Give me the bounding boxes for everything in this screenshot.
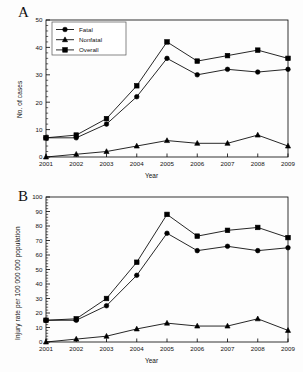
data-point (255, 48, 260, 53)
data-point (255, 132, 260, 137)
data-point (164, 138, 169, 143)
y-tick-label: 50 (36, 16, 43, 23)
y-tick-label: 60 (36, 251, 43, 258)
series-line (46, 58, 288, 137)
series-line (46, 214, 288, 320)
panel-a: A 01020304050200120022003200420052006200… (0, 0, 303, 186)
panel-a-plot: 0102030405020012002200320042005200620072… (0, 0, 303, 186)
data-point (195, 234, 200, 239)
x-tick-label: 2008 (251, 160, 265, 167)
data-point (286, 67, 291, 72)
data-point (225, 244, 230, 249)
data-point (134, 83, 139, 88)
legend-label: Overall (79, 46, 99, 53)
figure-container: A 01020304050200120022003200420052006200… (0, 0, 303, 372)
y-tick-label: 40 (36, 44, 43, 51)
data-point (195, 59, 200, 64)
x-tick-label: 2009 (281, 345, 295, 352)
data-point (104, 303, 109, 308)
data-point (165, 56, 170, 61)
x-tick-label: 2002 (69, 160, 83, 167)
data-point (104, 116, 109, 121)
data-point (286, 56, 291, 61)
panel-a-y-axis-title: No. of cases (16, 81, 23, 118)
panel-b-y-axis-title: Injury rate per 100 000 000 population (14, 226, 21, 340)
legend-marker-square (63, 48, 68, 53)
data-point (165, 212, 170, 217)
data-point (195, 248, 200, 253)
x-tick-label: 2009 (281, 160, 295, 167)
x-tick-label: 2007 (221, 345, 235, 352)
y-tick-label: 90 (36, 208, 43, 215)
y-tick-label: 50 (36, 266, 43, 273)
data-point (255, 70, 260, 75)
panel-a-x-axis-title: Year (0, 172, 303, 179)
x-tick-label: 2005 (160, 160, 174, 167)
data-point (74, 133, 79, 138)
data-point (165, 40, 170, 45)
y-tick-label: 10 (36, 324, 43, 331)
legend-label: Nonfatal (79, 36, 102, 43)
series-overall (44, 212, 291, 322)
panel-b: B 01020304050607080901002001200220032004… (0, 186, 303, 372)
y-tick-label: 30 (36, 71, 43, 78)
data-point (165, 231, 170, 236)
x-tick-label: 2005 (160, 345, 174, 352)
x-tick-label: 2001 (39, 345, 53, 352)
y-tick-label: 80 (36, 222, 43, 229)
x-tick-label: 2008 (251, 345, 265, 352)
panel-b-plot: 0102030405060708090100200120022003200420… (0, 186, 303, 372)
data-point (104, 296, 109, 301)
x-tick-label: 2003 (100, 345, 114, 352)
data-point (255, 225, 260, 230)
series-fatal (44, 231, 291, 323)
series-fatal (44, 56, 291, 140)
y-tick-label: 70 (36, 237, 43, 244)
data-point (164, 320, 169, 325)
y-tick-label: 20 (36, 309, 43, 316)
x-tick-label: 2007 (221, 160, 235, 167)
data-point (134, 94, 139, 99)
data-point (255, 316, 260, 321)
panel-b-x-axis-title: Year (0, 357, 303, 364)
x-tick-label: 2004 (130, 160, 144, 167)
data-point (134, 260, 139, 265)
data-point (195, 73, 200, 78)
y-tick-label: 100 (32, 193, 43, 200)
series-line (46, 233, 288, 320)
data-point (225, 67, 230, 72)
data-point (225, 53, 230, 58)
legend-label: Fatal (79, 26, 93, 33)
data-point (134, 273, 139, 278)
x-tick-label: 2006 (190, 345, 204, 352)
y-tick-label: 30 (36, 295, 43, 302)
x-tick-label: 2001 (39, 160, 53, 167)
data-point (74, 317, 79, 322)
data-point (286, 245, 291, 250)
x-tick-label: 2003 (100, 160, 114, 167)
x-tick-label: 2004 (130, 345, 144, 352)
y-tick-label: 40 (36, 280, 43, 287)
y-tick-label: 20 (36, 99, 43, 106)
data-point (255, 248, 260, 253)
data-point (44, 318, 49, 323)
y-tick-label: 10 (36, 126, 43, 133)
x-tick-label: 2006 (190, 160, 204, 167)
data-point (286, 235, 291, 240)
data-point (225, 228, 230, 233)
data-point (104, 122, 109, 127)
x-tick-label: 2002 (69, 345, 83, 352)
legend-marker-circle (63, 27, 68, 32)
data-point (44, 136, 49, 141)
